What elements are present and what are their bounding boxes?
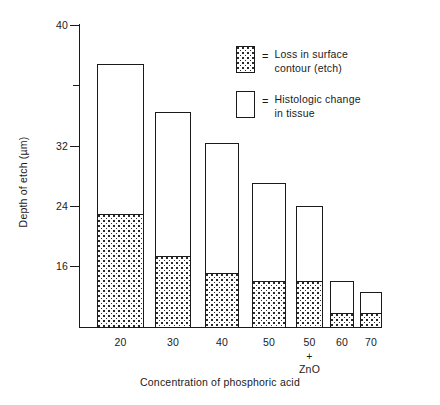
bar-etch-70 [360, 313, 382, 328]
bar-etch-40 [205, 273, 239, 328]
y-tick-label-40: 40 [40, 19, 68, 31]
y-tick-label-16: 16 [40, 260, 68, 272]
bar-etch-60 [330, 313, 354, 328]
y-tick-major-32 [70, 146, 80, 147]
legend-item-histologic-change: = Histologic change in tissue [236, 91, 436, 120]
legend-label-loss-in-surface-contour: Loss in surface contour (etch) [274, 48, 348, 75]
stippled-swatch-icon [236, 46, 255, 73]
y-tick-major-24 [70, 206, 80, 207]
legend-label-histologic-change: Histologic change in tissue [274, 93, 360, 120]
bar-etch-50-zno [296, 281, 323, 327]
y-tick-major-40 [70, 25, 80, 26]
bar-etch-20 [97, 214, 144, 327]
bar-etch-50 [252, 281, 286, 328]
legend-equals-sign-2: = [262, 95, 268, 107]
y-axis-title: Depth of etch (µm) [17, 97, 29, 267]
bar-etch-30 [155, 256, 191, 328]
x-tick-label-70: 70 [341, 336, 401, 350]
legend-item-loss-in-surface-contour: = Loss in surface contour (etch) [236, 46, 436, 75]
y-tick-label-24: 24 [40, 200, 68, 212]
x-tick-label-20: 20 [91, 336, 151, 350]
open-swatch-icon [236, 91, 255, 118]
y-tick-label-32: 32 [40, 140, 68, 152]
y-tick-minor-36 [73, 85, 81, 86]
x-axis-title: Concentration of phosphoric acid [0, 376, 440, 388]
bar-chart-figure: 40 32 24 16 Depth of etch (µm) 20 30 40 … [0, 0, 440, 405]
chart-legend: = Loss in surface contour (etch) = Histo… [236, 46, 436, 134]
y-tick-major-16 [70, 266, 80, 267]
y-axis-line [79, 24, 80, 328]
legend-equals-sign-1: = [262, 50, 268, 62]
